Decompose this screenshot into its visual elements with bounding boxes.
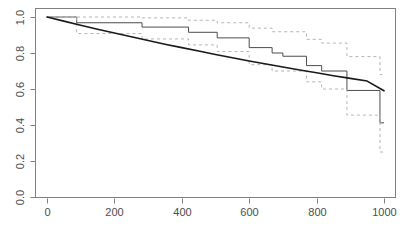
series-3-smooth — [47, 17, 384, 91]
chart-canvas: 02004006008001000 0.00.20.40.60.81.0 — [0, 0, 410, 239]
y-tick-label-1.0: 1.0 — [14, 10, 26, 25]
x-tick-label-200: 200 — [105, 206, 123, 218]
x-tick-label-1000: 1000 — [372, 206, 396, 218]
y-tick-label-0.8: 0.8 — [14, 46, 26, 61]
series-0-step — [47, 17, 384, 123]
y-axis-tick-labels: 0.00.20.40.60.81.0 — [14, 10, 26, 205]
y-axis-ticks — [31, 18, 36, 198]
plot-panel-border — [36, 9, 396, 198]
series-2-step-dashed — [47, 17, 384, 152]
series-1-step-dashed — [47, 17, 384, 75]
y-tick-label-0.2: 0.2 — [14, 154, 26, 169]
survival-plot-figure: 02004006008001000 0.00.20.40.60.81.0 — [0, 0, 410, 239]
x-tick-label-0: 0 — [44, 206, 50, 218]
y-tick-label-0.0: 0.0 — [14, 190, 26, 205]
plot-panel — [36, 9, 396, 198]
y-tick-label-0.4: 0.4 — [14, 118, 26, 133]
chart-series-group — [47, 17, 384, 152]
x-tick-label-800: 800 — [308, 206, 326, 218]
x-axis-ticks — [48, 199, 385, 204]
y-tick-label-0.6: 0.6 — [14, 82, 26, 97]
x-axis-tick-labels: 02004006008001000 — [44, 206, 396, 218]
x-tick-label-600: 600 — [240, 206, 258, 218]
x-tick-label-400: 400 — [173, 206, 191, 218]
